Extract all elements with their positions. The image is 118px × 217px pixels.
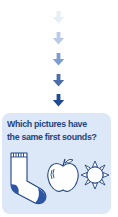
down-arrow-icon-1 [52, 11, 65, 24]
down-arrow-icon-2 [52, 32, 65, 45]
question-line-1: Which pictures have [7, 117, 103, 130]
down-arrow-icon-3 [52, 53, 65, 66]
apple-icon [46, 157, 80, 193]
sun-icon [80, 160, 110, 190]
down-arrow-icon-4 [52, 74, 65, 87]
question-line-2: the same first sounds? [7, 130, 103, 143]
sock-icon [8, 151, 48, 205]
question-card: Which pictures have the same first sound… [2, 113, 111, 214]
question-text: Which pictures have the same first sound… [7, 117, 103, 143]
down-arrow-icon-5 [52, 94, 65, 107]
